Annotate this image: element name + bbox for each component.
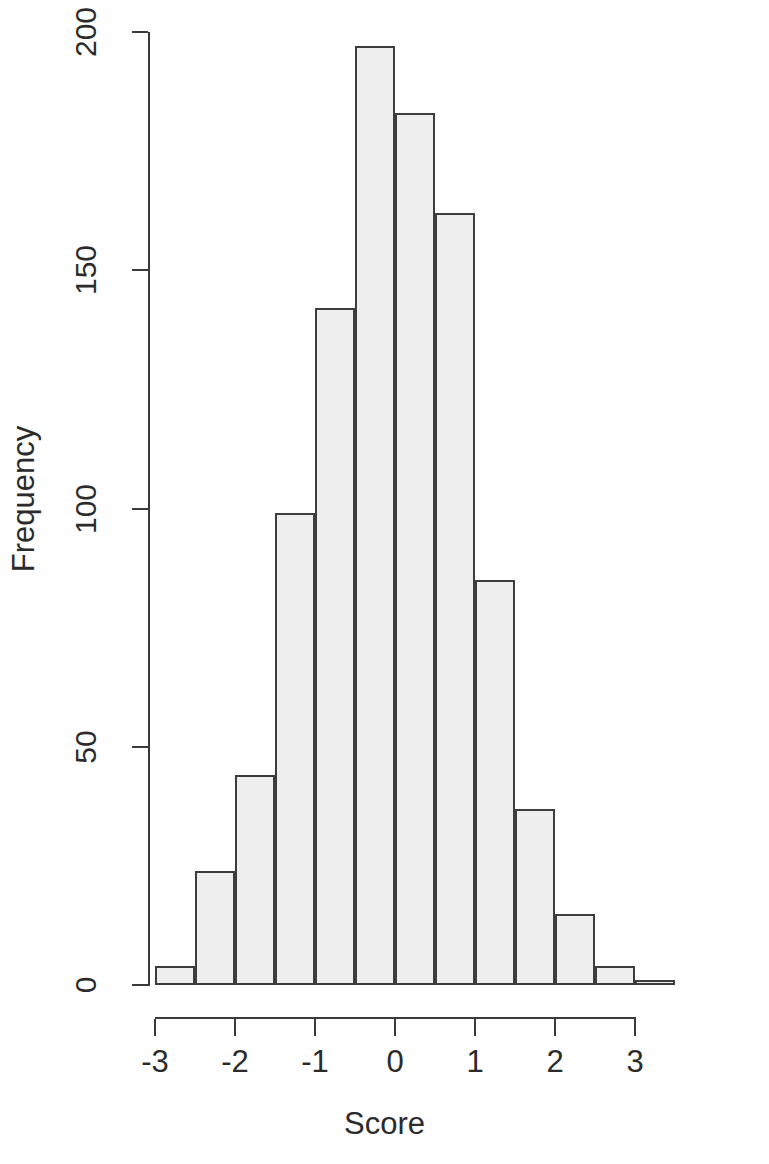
histogram-bar [475,580,515,985]
histogram-bar [355,46,395,985]
histogram-bars [0,0,769,1164]
histogram-bar [515,809,555,985]
histogram-bar [315,308,355,985]
histogram-bar [155,966,195,985]
y-axis-title: Frequency [7,399,41,599]
histogram-bar [395,113,435,985]
histogram-bar [275,513,315,985]
histogram-bar [555,914,595,985]
histogram-bar [595,966,635,985]
histogram-plot: 050100150200 -3-2-10123 Frequency Score [0,0,769,1164]
histogram-bar [635,980,675,985]
histogram-bar [435,213,475,985]
histogram-bar [195,871,235,985]
x-axis-title: Score [0,1104,769,1144]
histogram-bar [235,775,275,985]
